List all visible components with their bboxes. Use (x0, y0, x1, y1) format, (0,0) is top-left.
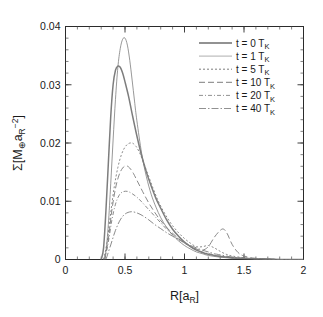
y-tick-label: 0 (55, 253, 61, 265)
surface-density-plot: 00.511.5200.010.020.030.04R[aR]Σ[M⊕aR−2]… (0, 0, 323, 317)
legend-label-0: t = 0 TK (236, 38, 269, 52)
series-group (101, 38, 303, 260)
series-line-2 (104, 143, 304, 260)
y-tick-label: 0.02 (40, 137, 61, 149)
x-tick-label: 1 (182, 264, 188, 276)
x-tick-label: 0.5 (118, 264, 133, 276)
series-line-5 (106, 212, 304, 260)
x-tick-label: 1.5 (237, 264, 252, 276)
legend-label-3: t = 10 TK (236, 77, 275, 91)
series-line-3 (105, 166, 304, 260)
y-axis-title: Σ[M⊕aR−2] (10, 115, 27, 171)
legend-label-4: t = 20 TK (236, 90, 275, 104)
chart-figure: 00.511.5200.010.020.030.04R[aR]Σ[M⊕aR−2]… (0, 0, 323, 317)
x-axis-title: R[aR] (170, 289, 199, 305)
y-tick-label: 0.01 (40, 195, 61, 207)
series-line-1 (104, 38, 304, 260)
x-tick-label: 2 (301, 264, 307, 276)
y-tick-label: 0.04 (40, 20, 61, 32)
legend-label-2: t = 5 TK (236, 64, 269, 78)
legend-label-1: t = 1 TK (236, 51, 269, 65)
x-tick-label: 0 (63, 264, 69, 276)
y-tick-label: 0.03 (40, 79, 61, 91)
legend-label-5: t = 40 TK (236, 103, 275, 117)
